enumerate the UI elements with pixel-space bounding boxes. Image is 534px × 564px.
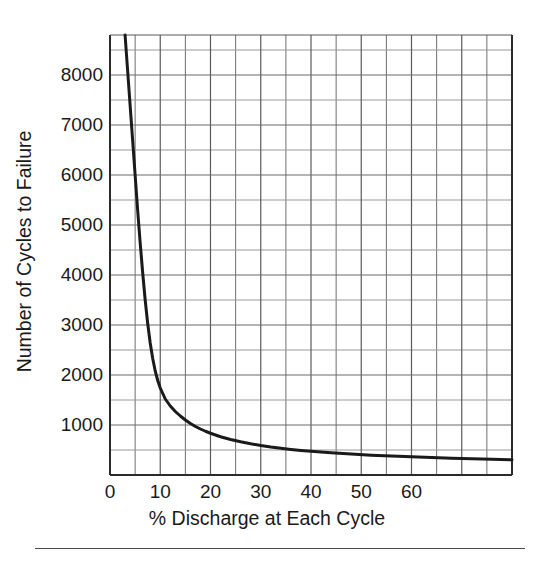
x-tick-label: 0: [85, 481, 135, 503]
y-tick-label: 4000: [61, 264, 103, 286]
y-tick-label: 6000: [61, 164, 103, 186]
data-series-group: [125, 35, 512, 460]
major-gridlines-group: [110, 35, 512, 475]
x-tick-label: 30: [236, 481, 286, 503]
y-tick-label: 3000: [61, 314, 103, 336]
y-tick-label: 2000: [61, 364, 103, 386]
x-axis-title: % Discharge at Each Cycle: [0, 507, 534, 530]
y-tick-label: 1000: [61, 414, 103, 436]
bottom-divider-rule: [35, 548, 525, 549]
x-tick-label: 60: [387, 481, 437, 503]
x-tick-label: 20: [186, 481, 236, 503]
y-tick-label: 8000: [61, 64, 103, 86]
x-tick-label: 40: [286, 481, 336, 503]
x-tick-label: 50: [336, 481, 386, 503]
y-axis-title: Number of Cycles to Failure: [13, 82, 36, 422]
x-tick-label: 10: [135, 481, 185, 503]
y-tick-label: 5000: [61, 214, 103, 236]
chart-figure: 10002000300040005000600070008000 0102030…: [0, 0, 534, 564]
y-tick-label: 7000: [61, 114, 103, 136]
